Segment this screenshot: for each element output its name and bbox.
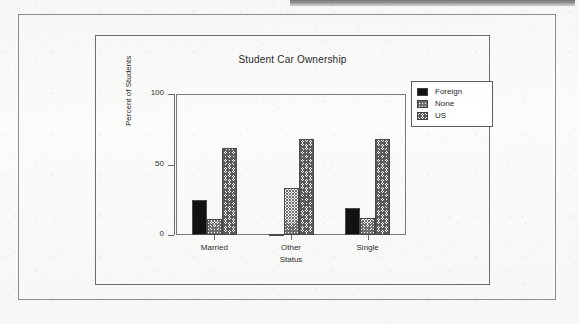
x-axis-tick [368, 235, 369, 240]
x-axis-group-label: Married [201, 243, 228, 252]
x-axis-group-label: Other [281, 243, 301, 252]
legend-swatch-us-icon [417, 112, 428, 120]
bar-us-married [222, 148, 237, 235]
bar-none-married [207, 219, 222, 235]
bar-none-other [284, 188, 299, 235]
y-axis-tick-label: 100 [151, 88, 164, 97]
bar-foreign-other [269, 234, 284, 236]
x-axis-tick [214, 235, 215, 240]
y-axis-tick: 0 [168, 235, 174, 236]
cropped-top-band-rule [290, 5, 575, 6]
legend-label: US [435, 111, 446, 120]
chart-container: Student Car Ownership Percent of Student… [95, 35, 490, 285]
legend-item-us: US [417, 110, 487, 121]
y-axis-title: Percent of Students [124, 56, 133, 126]
bar-foreign-married [192, 200, 207, 235]
bar-us-single [375, 139, 390, 235]
x-axis-group-label: Single [357, 243, 379, 252]
bar-none-single [360, 218, 375, 235]
bar-foreign-single [345, 208, 360, 235]
chart-title: Student Car Ownership [96, 54, 489, 65]
bar-us-other [299, 139, 314, 235]
legend-label: Foreign [435, 87, 462, 96]
y-axis-tick-label: 0 [160, 229, 164, 238]
y-axis-line [174, 94, 175, 235]
legend-swatch-foreign-icon [417, 88, 428, 96]
legend-item-none: None [417, 98, 487, 109]
chart-legend: ForeignNoneUS [411, 81, 493, 127]
legend-swatch-none-icon [417, 100, 428, 108]
y-axis-tick: 50 [168, 165, 174, 166]
x-axis-tick [291, 235, 292, 240]
scanned-page: Student Car Ownership Percent of Student… [0, 0, 579, 324]
legend-label: None [435, 99, 454, 108]
legend-item-foreign: Foreign [417, 86, 487, 97]
y-axis-tick: 100 [168, 94, 174, 95]
y-axis-tick-label: 50 [155, 159, 164, 168]
x-axis-title: Status [280, 255, 303, 264]
